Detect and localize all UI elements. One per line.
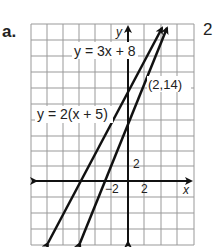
equation-label-3x-plus-8: y = 3x + 8 [74, 43, 136, 59]
x-axis-label: x [182, 183, 190, 197]
equation-label-2x-plus-5: y = 2(x + 5) [37, 106, 108, 122]
coordinate-graph: y = 3x + 8 (2,14) y = 2(x + 5) y x −2 2 … [0, 0, 215, 247]
y-tick-2: 2 [133, 157, 140, 171]
x-tick-neg-2: −2 [105, 182, 119, 196]
y-axis-label: y [115, 25, 123, 39]
x-tick-2: 2 [141, 182, 148, 196]
intersection-point-label: (2,14) [148, 77, 182, 92]
